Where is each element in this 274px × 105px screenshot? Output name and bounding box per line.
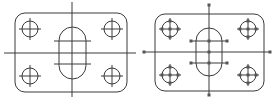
grip-handle[interactable] [247, 20, 250, 23]
grip-handle[interactable] [177, 28, 180, 31]
grip-handle[interactable] [169, 28, 172, 31]
grip-handle[interactable] [247, 28, 250, 31]
grip-handle[interactable] [226, 62, 229, 65]
grip-handle[interactable] [169, 66, 172, 69]
grip-handle[interactable] [190, 62, 193, 65]
grip-handle[interactable] [190, 40, 193, 43]
grip-handle[interactable] [208, 62, 211, 65]
grip-handle[interactable] [247, 66, 250, 69]
grip-handle[interactable] [208, 51, 211, 54]
grip-handle[interactable] [143, 51, 146, 54]
selected-drawing[interactable] [143, 4, 272, 97]
grip-handle[interactable] [208, 94, 211, 97]
grip-handle[interactable] [208, 40, 211, 43]
grip-handle[interactable] [169, 74, 172, 77]
grip-handle[interactable] [161, 28, 164, 31]
plain-drawing [4, 2, 136, 97]
grip-handle[interactable] [247, 82, 250, 85]
grip-handle[interactable] [208, 4, 211, 7]
grip-handle[interactable] [177, 74, 180, 77]
grip-handle[interactable] [269, 51, 272, 54]
grip-handle[interactable] [169, 82, 172, 85]
cad-drawing-canvas [0, 0, 274, 105]
grip-handle[interactable] [239, 74, 242, 77]
grip-handle[interactable] [247, 74, 250, 77]
grip-handle[interactable] [169, 20, 172, 23]
grip-handle[interactable] [255, 74, 258, 77]
grip-handle[interactable] [247, 36, 250, 39]
grip-handle[interactable] [226, 40, 229, 43]
grip-handle[interactable] [169, 36, 172, 39]
grip-handle[interactable] [255, 28, 258, 31]
grip-handle[interactable] [161, 74, 164, 77]
grip-handle[interactable] [239, 28, 242, 31]
